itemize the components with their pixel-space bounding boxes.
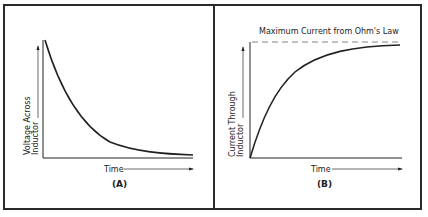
panel-a-x-label: Time: [103, 165, 124, 174]
panel-a-y-label-line2: Inductor: [31, 121, 40, 155]
inductor-graphs: Voltage Across Inductor Time (A) Maximum…: [0, 0, 428, 217]
panel-a: Voltage Across Inductor Time (A): [23, 40, 193, 189]
panel-a-label: (A): [112, 179, 127, 189]
panel-b-x-label: Time: [310, 165, 331, 174]
panel-b-label: (B): [317, 179, 332, 189]
panel-b: Maximum Current from Ohm's Law Current T…: [228, 27, 402, 189]
panel-b-asymptote-label: Maximum Current from Ohm's Law: [259, 27, 399, 36]
panel-b-y-label-line2: Inductor: [236, 123, 245, 157]
panel-a-decay-curve: [45, 40, 193, 155]
panel-b-rise-curve: [250, 45, 400, 158]
